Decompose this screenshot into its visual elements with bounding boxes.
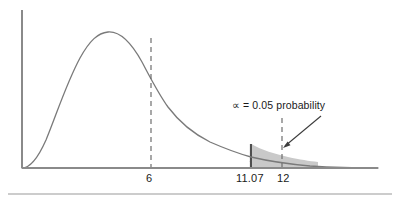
alpha-probability-annotation: ∝ = 0.05 probability xyxy=(232,99,325,111)
chi-square-figure: ∝ = 0.05 probability 6 11.07 12 xyxy=(0,0,399,201)
plot-canvas xyxy=(0,0,399,201)
x-tick-label-12: 12 xyxy=(277,172,290,184)
rejection-region xyxy=(22,27,378,168)
x-tick-label-6: 6 xyxy=(146,172,152,184)
rejection-region-fill xyxy=(251,144,318,168)
x-tick-label-11-07: 11.07 xyxy=(236,172,264,184)
annotation-arrow-line xyxy=(285,116,321,146)
